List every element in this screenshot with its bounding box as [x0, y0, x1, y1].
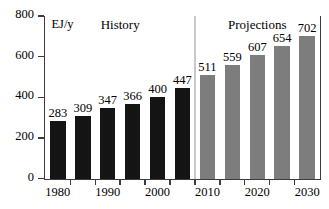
bar-value-label: 347 — [95, 94, 120, 107]
x-axis-tick-label: 2020 — [245, 186, 270, 199]
bar-value-label: 283 — [45, 107, 70, 120]
bar-value-label: 654 — [270, 32, 295, 45]
y-axis-unit-label: EJ/y — [51, 18, 73, 31]
y-axis-tick-mark — [38, 137, 44, 138]
bar — [150, 97, 165, 178]
y-axis-tick-label: 0 — [28, 171, 34, 184]
bar — [75, 116, 90, 179]
y-axis-tick-label: 200 — [15, 130, 34, 143]
bar-value-label: 607 — [245, 41, 270, 54]
y-axis-tick-mark — [38, 56, 44, 57]
bar — [250, 55, 265, 178]
bar — [50, 121, 65, 179]
y-axis-tick-mark — [38, 15, 44, 16]
section-heading-projections: Projections — [197, 18, 317, 31]
bar — [200, 75, 215, 179]
x-axis-tick-label: 2030 — [295, 186, 320, 199]
bar-value-label: 559 — [220, 51, 245, 64]
bar-value-label: 511 — [195, 61, 220, 74]
bar-value-label: 447 — [170, 74, 195, 87]
x-axis: 198019902000201020202030 — [45, 180, 319, 209]
y-axis-tick-label: 400 — [15, 89, 34, 102]
history-projection-divider — [194, 16, 195, 179]
y-axis-tick-label: 600 — [15, 49, 34, 62]
bar — [299, 36, 314, 179]
bar — [175, 88, 190, 179]
x-axis-tick-label: 2010 — [195, 186, 220, 199]
plot-area: 283309347366400447511559607654702 Histor… — [45, 16, 319, 179]
x-axis-tick-label: 2000 — [145, 186, 170, 199]
bar — [100, 108, 115, 179]
bar-value-label: 400 — [145, 83, 170, 96]
x-axis-tick-label: 1990 — [95, 186, 120, 199]
bar — [274, 46, 289, 179]
y-axis-tick-mark — [38, 178, 44, 179]
y-axis-tick-mark — [38, 97, 44, 98]
x-axis-tick-label: 1980 — [45, 186, 70, 199]
bar-chart: 0200400600800 28330934736640044751155960… — [0, 0, 329, 209]
bar — [125, 104, 140, 178]
y-axis-tick-label: 800 — [15, 8, 34, 21]
bar — [225, 65, 240, 179]
bar-value-label: 309 — [70, 102, 95, 115]
bar-value-label: 366 — [120, 90, 145, 103]
section-heading-history: History — [60, 18, 180, 31]
